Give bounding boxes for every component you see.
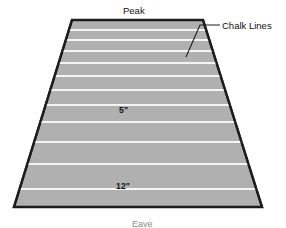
chalk-lines-label: Chalk Lines: [222, 21, 272, 31]
roof-surface: [14, 20, 262, 207]
roof-chalk-lines-diagram: Peak Chalk Lines 5" 12" Eave: [0, 0, 286, 228]
pitch-rise-label: 5": [119, 106, 128, 115]
eave-label: Eave: [132, 220, 153, 228]
pitch-run-label: 12": [116, 182, 130, 191]
roof-illustration: [0, 0, 286, 228]
peak-label: Peak: [123, 6, 145, 16]
